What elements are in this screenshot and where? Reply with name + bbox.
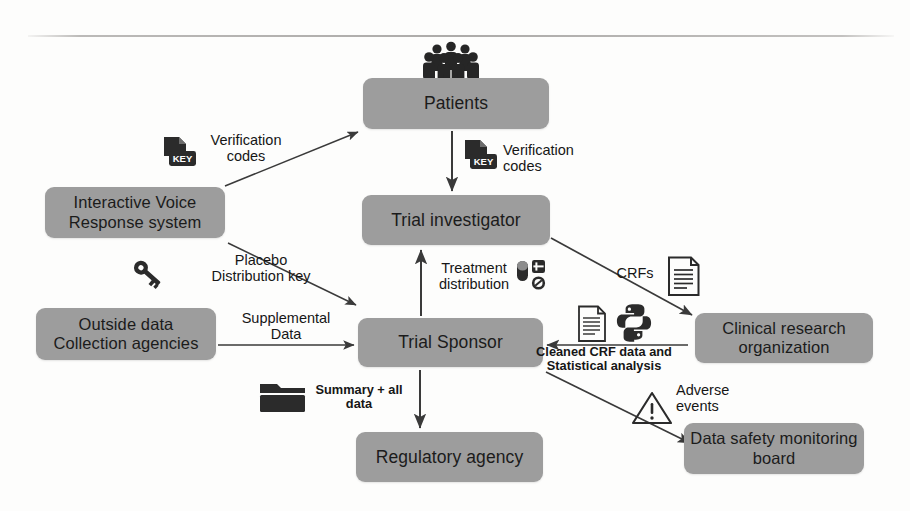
node-data-safety-monitoring-board[interactable]: Data safety monitoring board (684, 423, 864, 474)
node-regulatory-agency[interactable]: Regulatory agency (356, 432, 543, 482)
node-regulatory-agency-label: Regulatory agency (370, 447, 530, 468)
edge-label-summary-all-data: Summary + all data (309, 383, 409, 412)
people-crowd-icon (415, 41, 487, 81)
key-document-icon-text: KEY (474, 156, 494, 167)
python-logo-icon (614, 302, 654, 342)
node-trial-sponsor-label: Trial Sponsor (392, 332, 509, 353)
key-document-icon: KEY (461, 139, 501, 175)
top-divider-rule (28, 35, 894, 37)
node-data-safety-monitoring-board-label: Data safety monitoring board (684, 429, 864, 468)
edge-label-treatment-distribution: Treatment distribution (428, 260, 520, 292)
node-outside-data-collection-agencies-label: Outside data Collection agencies (36, 315, 216, 354)
node-patients-label: Patients (418, 93, 494, 114)
node-interactive-voice-response-system[interactable]: Interactive Voice Response system (45, 187, 225, 238)
edge-label-supplemental-data: Supplemental Data (222, 310, 350, 342)
node-trial-sponsor[interactable]: Trial Sponsor (358, 318, 543, 367)
document-lines-icon (577, 305, 607, 343)
pills-tablets-icon (516, 258, 562, 292)
edge-label-adverse-events: Adverse events (676, 382, 756, 414)
node-trial-investigator[interactable]: Trial investigator (362, 195, 550, 245)
edge-label-cleaned-crf-data: Cleaned CRF data and Statistical analysi… (529, 345, 679, 374)
node-patients[interactable]: Patients (363, 78, 549, 129)
node-outside-data-collection-agencies[interactable]: Outside data Collection agencies (36, 308, 216, 360)
folder-icon (259, 380, 307, 416)
node-clinical-research-organization[interactable]: Clinical research organization (695, 313, 873, 363)
key-icon (128, 256, 168, 292)
document-lines-icon (667, 256, 701, 298)
edge-label-placebo-distribution-key: Placebo Distribution key (179, 252, 343, 284)
warning-triangle-icon (630, 390, 674, 426)
edge-label-crfs: CRFs (606, 265, 664, 281)
diagram-canvas: KEY KEY (0, 0, 910, 511)
edge-label-verification-codes-ivr: Verification codes (186, 132, 306, 164)
edge-label-verification-codes-patients: Verification codes (503, 142, 613, 174)
node-trial-investigator-label: Trial investigator (385, 210, 527, 231)
node-interactive-voice-response-system-label: Interactive Voice Response system (45, 193, 225, 232)
node-clinical-research-organization-label: Clinical research organization (695, 319, 873, 358)
